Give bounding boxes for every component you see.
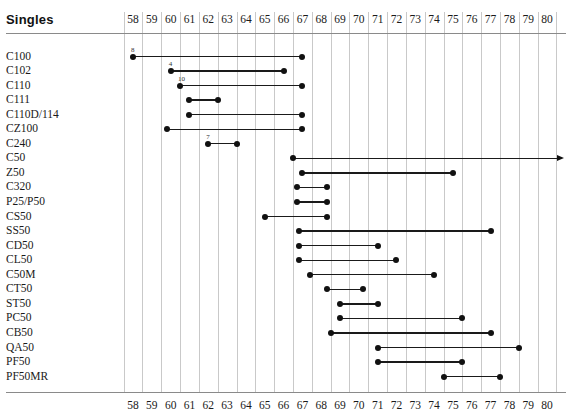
axis-tick-bottom-71: 71 (368, 399, 387, 411)
timeline-end-marker (299, 112, 305, 118)
axis-tick-top-58: 58 (124, 13, 143, 25)
timeline-bar (302, 172, 453, 173)
gridline (199, 12, 200, 392)
axis-tick-top-79: 79 (519, 13, 538, 25)
plot-area (0, 0, 571, 420)
axis-tick-top-74: 74 (425, 13, 444, 25)
timeline-start-marker (324, 286, 330, 292)
timeline-start-marker (328, 330, 334, 336)
gridline (462, 12, 463, 392)
axis-tick-bottom-67: 67 (293, 399, 312, 411)
timeline-bar (299, 260, 397, 261)
timeline-end-marker (360, 286, 366, 292)
timeline-start-marker (164, 126, 170, 132)
timeline-end-marker (299, 126, 305, 132)
timeline-bar (180, 85, 302, 86)
timeline-start-marker (337, 301, 343, 307)
timeline-bar (297, 187, 327, 188)
axis-tick-top-73: 73 (406, 13, 425, 25)
axis-tick-top-63: 63 (218, 13, 237, 25)
row-footnote-marker: 7 (206, 133, 210, 141)
row-label-C320: C320 (6, 180, 31, 192)
row-label-CT50: CT50 (6, 282, 32, 294)
row-label-C110D-114: C110D/114 (6, 108, 59, 120)
row-label-C50: C50 (6, 151, 25, 163)
timeline-bar (208, 143, 236, 144)
timeline-start-marker (299, 170, 305, 176)
timeline-bar (444, 376, 500, 377)
row-label-C111: C111 (6, 93, 30, 105)
timeline-start-marker (307, 272, 313, 278)
timeline-end-marker (450, 170, 456, 176)
gridline (237, 12, 238, 392)
timeline-start-marker (186, 97, 192, 103)
gridline (500, 12, 501, 392)
row-footnote-marker: 8 (131, 46, 135, 54)
axis-tick-top-59: 59 (142, 13, 161, 25)
gridline (255, 12, 256, 392)
row-label-C240: C240 (6, 137, 31, 149)
timeline-bar (293, 158, 558, 159)
timeline-start-marker (441, 374, 447, 380)
row-label-PF50MR: PF50MR (6, 370, 48, 382)
axis-tick-bottom-69: 69 (331, 399, 350, 411)
gridline (142, 12, 143, 392)
timeline-end-marker (299, 83, 305, 89)
gridline (161, 12, 162, 392)
axis-tick-top-62: 62 (199, 13, 218, 25)
axis-tick-top-77: 77 (481, 13, 500, 25)
timeline-end-marker (299, 54, 305, 60)
axis-tick-top-76: 76 (462, 13, 481, 25)
timeline-end-marker (281, 68, 287, 74)
gridline (425, 12, 426, 392)
gridline (368, 12, 369, 392)
timeline-bar (340, 303, 378, 304)
timeline-end-marker (324, 214, 330, 220)
row-label-PF50: PF50 (6, 355, 30, 367)
axis-divider-bottom (6, 392, 566, 393)
timeline-end-marker (324, 184, 330, 190)
timeline-start-marker (205, 141, 211, 147)
timeline-end-marker (488, 228, 494, 234)
timeline-bar (299, 230, 491, 231)
timeline-bar (378, 361, 463, 362)
axis-tick-top-68: 68 (312, 13, 331, 25)
row-label-C50M: C50M (6, 268, 35, 280)
timeline-start-marker (294, 184, 300, 190)
axis-tick-bottom-64: 64 (236, 399, 255, 411)
axis-tick-bottom-77: 77 (481, 399, 500, 411)
axis-tick-bottom-59: 59 (142, 399, 161, 411)
singles-timeline-chart: Singles 58596061626364656667686970717273… (0, 0, 571, 420)
axis-tick-top-75: 75 (443, 13, 462, 25)
timeline-end-marker (459, 359, 465, 365)
axis-tick-bottom-80: 80 (538, 399, 557, 411)
timeline-start-marker (375, 345, 381, 351)
timeline-end-marker (431, 272, 437, 278)
axis-tick-bottom-74: 74 (425, 399, 444, 411)
timeline-open-end-arrow (557, 155, 564, 161)
axis-tick-bottom-65: 65 (255, 399, 274, 411)
gridline (556, 12, 557, 392)
timeline-start-marker (294, 199, 300, 205)
timeline-end-marker (324, 199, 330, 205)
timeline-bar (167, 129, 303, 130)
axis-tick-bottom-76: 76 (462, 399, 481, 411)
axis-tick-bottom-75: 75 (443, 399, 462, 411)
timeline-bar (297, 201, 327, 202)
axis-tick-bottom-60: 60 (161, 399, 180, 411)
row-label-PC50: PC50 (6, 311, 32, 323)
timeline-start-marker (130, 54, 136, 60)
timeline-end-marker (516, 345, 522, 351)
axis-tick-top-72: 72 (387, 13, 406, 25)
header-divider-top (6, 33, 566, 34)
row-footnote-marker: 4 (169, 60, 173, 68)
row-label-ST50: ST50 (6, 297, 31, 309)
timeline-end-marker (215, 97, 221, 103)
timeline-start-marker (296, 228, 302, 234)
row-label-CD50: CD50 (6, 239, 33, 251)
timeline-end-marker (234, 141, 240, 147)
axis-tick-top-70: 70 (349, 13, 368, 25)
timeline-end-marker (375, 243, 381, 249)
timeline-end-marker (375, 301, 381, 307)
timeline-start-marker (296, 257, 302, 263)
